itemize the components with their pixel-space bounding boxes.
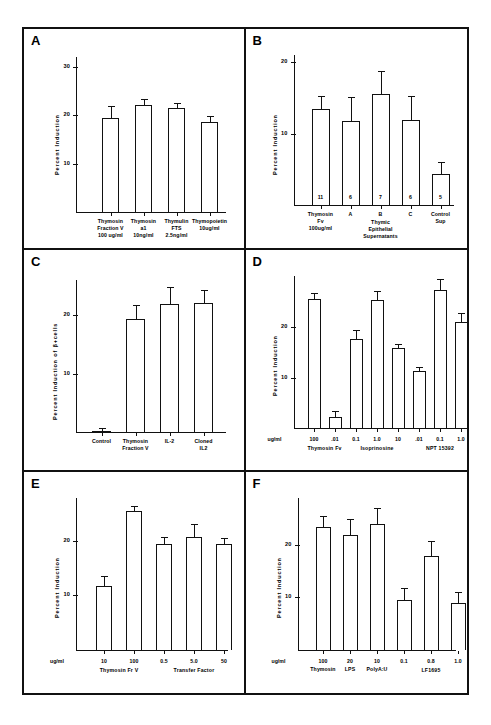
error-cap-F-2 — [374, 508, 381, 509]
bar-D-3 — [371, 300, 384, 429]
x-tick-D-5 — [419, 429, 420, 432]
bar-B-2 — [372, 94, 390, 205]
bar-D-4 — [392, 348, 405, 428]
panel-f-label: F — [253, 476, 261, 491]
error-bar-B-1 — [351, 97, 352, 121]
error-cap-B-0 — [318, 96, 325, 97]
error-cap-F-4 — [428, 541, 435, 542]
error-cap-D-6 — [437, 279, 444, 280]
panel-d: D 1020Percent Induction100.010.11.010.01… — [246, 250, 468, 471]
bar-E-3 — [186, 537, 202, 650]
error-cap-E-3 — [191, 524, 198, 525]
bar-F-1 — [343, 535, 358, 649]
error-bar-E-3 — [194, 524, 195, 537]
y-tick-label-F-1: 20 — [274, 541, 292, 547]
panel-a: A 102030Percent InductionThymosinFractio… — [24, 29, 246, 250]
error-bar-F-0 — [323, 516, 324, 527]
error-cap-D-5 — [416, 367, 423, 368]
error-cap-A-1 — [141, 99, 148, 100]
x-tick-D-3 — [377, 429, 378, 432]
error-bar-B-4 — [441, 162, 442, 174]
bar-C-0 — [92, 431, 111, 433]
error-bar-D-6 — [440, 279, 441, 290]
error-cap-D-3 — [374, 291, 381, 292]
group-label-E-1: Transfer Factor — [154, 667, 234, 673]
error-cap-C-0 — [99, 428, 106, 429]
x-tick-B-2 — [381, 206, 382, 209]
error-cap-A-0 — [108, 106, 115, 107]
n-count-B-4: 5 — [432, 194, 450, 200]
panel-b-plot: 1020Percent Induction11ThymosinFv100ug/m… — [294, 55, 454, 205]
n-count-B-1: 6 — [342, 194, 360, 200]
y-axis-line-C — [76, 280, 77, 432]
panel-a-label: A — [31, 33, 41, 48]
x-tick-label-D-7: 1.0 — [445, 436, 467, 443]
y-tick-label-A-2: 30 — [52, 63, 70, 69]
bar-F-5 — [451, 603, 466, 650]
x-tick-F-2 — [377, 651, 378, 654]
x-tick-A-0 — [111, 213, 112, 216]
x-tick-D-2 — [356, 429, 357, 432]
error-cap-E-1 — [131, 506, 138, 507]
group-label-B-0: ThymicEpithelialSupernatants — [336, 219, 426, 240]
x-axis-line-A — [76, 212, 226, 213]
x-tick-F-4 — [431, 651, 432, 654]
y-tick-F-1 — [295, 545, 300, 546]
error-bar-B-2 — [381, 71, 382, 94]
bar-C-3 — [194, 303, 213, 432]
x-tick-label-A-3: Thymopoietin10ug/ml — [184, 218, 236, 232]
x-tick-E-0 — [104, 651, 105, 654]
x-axis-line-E — [76, 650, 228, 651]
unit-label-D: ug/ml — [268, 436, 282, 442]
error-bar-B-3 — [411, 96, 412, 120]
x-tick-E-2 — [164, 651, 165, 654]
bar-F-4 — [424, 556, 439, 649]
y-axis-label-C: Percent Induction of β+cells — [52, 323, 58, 420]
error-cap-F-3 — [401, 588, 408, 589]
panel-c-label: C — [31, 254, 41, 269]
bar-C-1 — [126, 319, 145, 432]
bar-A-1 — [135, 105, 152, 212]
x-tick-E-4 — [224, 651, 225, 654]
x-tick-A-3 — [210, 213, 211, 216]
bar-B-4 — [432, 174, 450, 205]
x-tick-D-7 — [461, 429, 462, 432]
x-tick-D-6 — [440, 429, 441, 432]
y-tick-label-B-1: 20 — [270, 58, 288, 64]
error-cap-D-1 — [332, 411, 339, 412]
x-tick-label-F-5: 1.0 — [442, 658, 467, 665]
error-bar-F-5 — [458, 592, 459, 603]
bar-D-2 — [350, 339, 363, 428]
bar-E-0 — [96, 586, 112, 650]
x-tick-C-0 — [102, 433, 103, 436]
error-cap-B-4 — [438, 162, 445, 163]
panel-e-plot: 1020Percent Induction101000.55.050ug/mlT… — [76, 498, 228, 650]
x-tick-B-4 — [441, 206, 442, 209]
y-axis-label-B: Percent Induction — [272, 114, 278, 175]
x-tick-E-1 — [134, 651, 135, 654]
y-tick-B-0 — [291, 134, 296, 135]
bar-D-7 — [455, 322, 468, 428]
y-axis-line-E — [76, 498, 77, 650]
y-tick-D-0 — [291, 378, 296, 379]
error-bar-F-3 — [404, 588, 405, 601]
x-tick-C-2 — [170, 433, 171, 436]
panel-f-plot: 1020Percent Induction100Thymosin20LPS10P… — [298, 498, 456, 650]
error-bar-A-0 — [111, 106, 112, 118]
x-tick-B-0 — [321, 206, 322, 209]
bar-A-2 — [168, 108, 185, 212]
error-bar-B-0 — [321, 96, 322, 109]
y-tick-E-1 — [73, 541, 78, 542]
x-tick-label-E-3: 5.0 — [178, 658, 210, 665]
error-cap-D-0 — [311, 293, 318, 294]
x-tick-D-4 — [398, 429, 399, 432]
bar-B-1 — [342, 121, 360, 205]
bar-D-5 — [413, 371, 426, 429]
error-bar-F-4 — [431, 541, 432, 557]
bar-D-1 — [329, 417, 342, 429]
bar-A-0 — [102, 118, 119, 212]
error-cap-D-7 — [458, 313, 465, 314]
bar-D-6 — [434, 290, 447, 428]
x-tick-B-3 — [411, 206, 412, 209]
error-bar-D-3 — [377, 291, 378, 300]
